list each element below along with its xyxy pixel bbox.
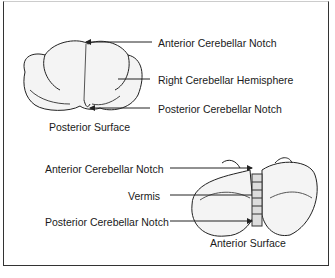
label-posterior-cerebellar-notch-top: Posterior Cerebellar Notch	[158, 103, 282, 115]
label-anterior-cerebellar-notch-bottom: Anterior Cerebellar Notch	[45, 163, 163, 175]
label-right-cerebellar-hemisphere: Right Cerebellar Hemisphere	[158, 74, 293, 86]
caption-anterior-surface: Anterior Surface	[210, 237, 286, 249]
label-anterior-cerebellar-notch-top: Anterior Cerebellar Notch	[158, 37, 276, 49]
label-vermis: Vermis	[128, 190, 160, 202]
label-posterior-cerebellar-notch-bottom: Posterior Cerebellar Notch	[45, 216, 169, 228]
caption-posterior-surface: Posterior Surface	[49, 121, 130, 133]
anterior-surface-drawing	[192, 158, 317, 236]
posterior-surface-drawing	[24, 41, 142, 111]
